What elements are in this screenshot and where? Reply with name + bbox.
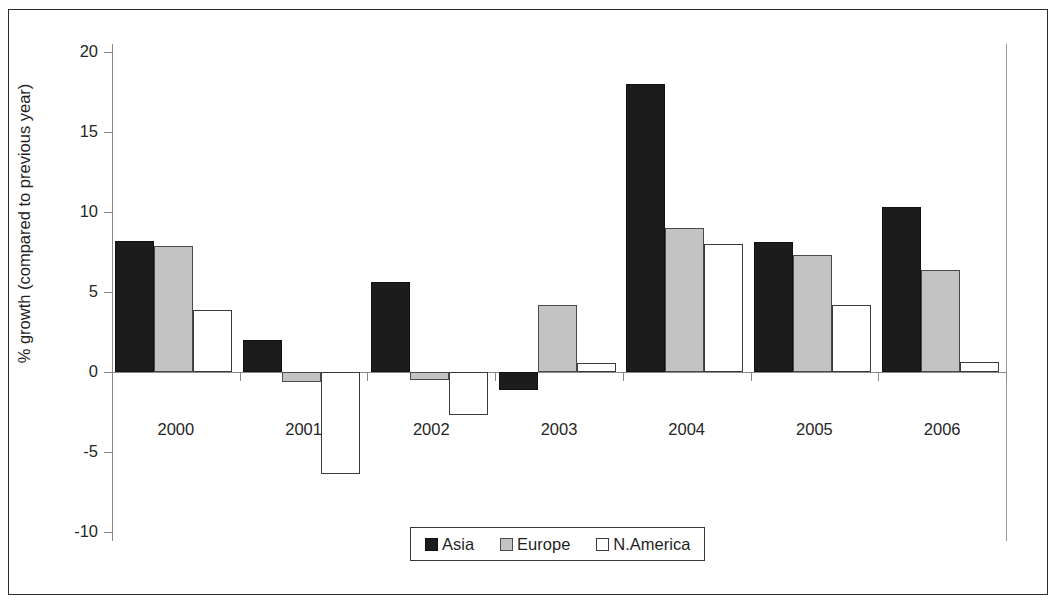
bar-asia-2004 <box>626 84 665 372</box>
chart-figure: % growth (compared to previous year) 201… <box>0 0 1059 607</box>
legend-item-europe: Europe <box>500 535 570 554</box>
bar-europe-2006 <box>921 270 960 372</box>
y-tick-10 <box>104 212 113 213</box>
legend-label-europe: Europe <box>517 535 570 554</box>
y-tick-label--5: -5 <box>52 443 98 460</box>
legend-swatch-namerica <box>596 538 609 551</box>
y-tick-label-5: 5 <box>52 283 98 300</box>
y-tick--10 <box>104 532 113 533</box>
y-tick-5 <box>104 292 113 293</box>
bar-asia-2002 <box>371 282 410 372</box>
y-axis-title: % growth (compared to previous year) <box>15 14 34 434</box>
bar-europe-2003 <box>538 305 577 372</box>
x-axis-label-2002: 2002 <box>371 420 491 439</box>
x-tick-2001 <box>367 372 368 381</box>
legend-label-namerica: N.America <box>613 535 690 554</box>
legend-item-namerica: N.America <box>596 535 690 554</box>
bar-europe-2001 <box>282 372 321 382</box>
legend-label-asia: Asia <box>442 535 474 554</box>
bar-asia-2005 <box>754 242 793 372</box>
x-axis-label-2003: 2003 <box>499 420 619 439</box>
bar-asia-2000 <box>115 241 154 372</box>
x-axis-label-2004: 2004 <box>627 420 747 439</box>
x-axis-label-2005: 2005 <box>754 420 874 439</box>
bar-namerica-2005 <box>832 305 871 372</box>
y-tick-label-0: 0 <box>52 363 98 380</box>
bar-europe-2002 <box>410 372 449 380</box>
y-tick--5 <box>104 452 113 453</box>
y-tick-label--10: -10 <box>52 523 98 540</box>
x-tick-2004 <box>751 372 752 381</box>
bar-namerica-2006 <box>960 362 999 372</box>
x-axis-label-2006: 2006 <box>882 420 1002 439</box>
bar-namerica-2003 <box>577 363 616 372</box>
bar-asia-2003 <box>499 372 538 390</box>
bar-namerica-2002 <box>449 372 488 415</box>
y-tick-label-15: 15 <box>52 123 98 140</box>
bar-europe-2000 <box>154 246 193 372</box>
plot-right-boundary <box>1006 44 1007 541</box>
x-tick-2005 <box>878 372 879 381</box>
y-tick-label-10: 10 <box>52 203 98 220</box>
bar-namerica-2004 <box>704 244 743 372</box>
x-tick-2000 <box>240 372 241 381</box>
y-tick-0 <box>104 372 113 373</box>
chart-legend: Asia Europe N.America <box>410 527 705 561</box>
x-tick-2003 <box>623 372 624 381</box>
legend-swatch-europe <box>500 538 513 551</box>
bar-europe-2004 <box>665 228 704 372</box>
x-tick-2006 <box>1006 372 1007 381</box>
bar-namerica-2000 <box>193 310 232 372</box>
zero-baseline <box>112 372 1007 373</box>
y-tick-15 <box>104 132 113 133</box>
bar-europe-2005 <box>793 255 832 372</box>
bar-namerica-2001 <box>321 372 360 474</box>
legend-swatch-asia <box>425 538 438 551</box>
x-axis-label-2000: 2000 <box>116 420 236 439</box>
x-tick-2002 <box>495 372 496 381</box>
y-tick-20 <box>104 52 113 53</box>
y-tick-label-20: 20 <box>52 43 98 60</box>
legend-item-asia: Asia <box>425 535 474 554</box>
bar-asia-2001 <box>243 340 282 372</box>
bar-asia-2006 <box>882 207 921 372</box>
